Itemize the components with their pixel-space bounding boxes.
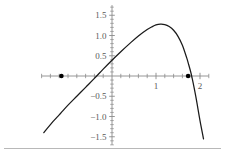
y-tick-label: 1.5 xyxy=(95,10,107,20)
y-tick-label: −1.0 xyxy=(90,112,107,122)
y-tick-label: −0.5 xyxy=(90,91,107,101)
y-tick-label: 1.0 xyxy=(95,31,107,41)
marked-point xyxy=(186,74,191,79)
plot-canvas: 12 1.51.00.5−0.5−1.0−1.5 xyxy=(0,0,225,156)
y-tick-label: −1.5 xyxy=(90,132,107,142)
x-tick-label: 2 xyxy=(198,81,203,91)
x-tick-label: 1 xyxy=(154,81,159,91)
marked-point xyxy=(59,74,64,79)
plot-figure: 12 1.51.00.5−0.5−1.0−1.5 xyxy=(0,0,225,156)
y-tick-label: 0.5 xyxy=(95,51,107,61)
